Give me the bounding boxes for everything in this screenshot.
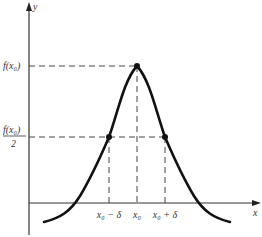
guide-lines [29,66,165,203]
x-tick-left-label: x₀ − δ [96,209,122,220]
peak-point [134,63,140,69]
right-half-point [162,134,168,140]
x-axis-arrow-icon [252,200,261,206]
fhalf-denominator: 2 [11,138,16,149]
fmax-label: f(x₀) [3,60,21,72]
x-tick-center-label: x₀ [132,209,141,220]
y-axis-label: y [32,1,38,12]
x-tick-right-label: x₀ + δ [152,209,178,220]
x-axis-label: x [252,207,258,218]
fhalf-numerator: f(x₀) [3,124,21,136]
y-axis-arrow-icon [26,2,32,11]
left-half-point [106,134,112,140]
bell-curve-diagram: y x f(x₀) f(x₀) 2 x₀ − δ x₀ x₀ + δ [0,0,262,237]
